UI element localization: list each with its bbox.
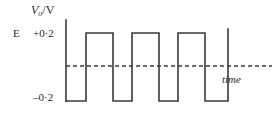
y-tick-label-positive: +0·2	[33, 28, 54, 39]
square-wave-trace	[66, 29, 228, 101]
time-axis-label: time	[222, 74, 241, 85]
emf-marker-label: E	[13, 28, 20, 39]
y-tick-label-negative: –0·2	[33, 92, 53, 103]
y-axis-label: Vo/V	[31, 4, 54, 18]
waveform-diagram: Vo/V E +0·2 –0·2 time	[0, 0, 277, 116]
y-axis-unit: V	[46, 3, 55, 17]
